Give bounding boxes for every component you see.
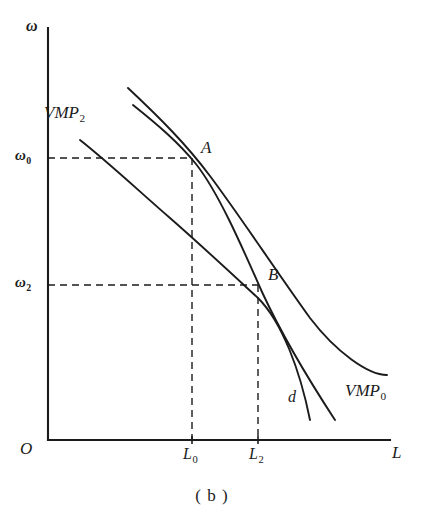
x-tick-label-L0: L0 bbox=[183, 446, 198, 466]
curve-label-d: d bbox=[288, 389, 296, 405]
curve-label-vmp0-base: VMP bbox=[345, 381, 380, 400]
point-label-A: A bbox=[201, 139, 211, 156]
y-tick-omega2-subscript: 2 bbox=[26, 282, 31, 293]
y-tick-omega0-subscript: 0 bbox=[26, 155, 31, 166]
x-tick-L2-base: L bbox=[249, 445, 258, 462]
y-tick-omega0-base: ω bbox=[15, 147, 26, 163]
x-tick-L2-subscript: 2 bbox=[258, 454, 264, 465]
x-tick-label-L2: L2 bbox=[249, 446, 264, 466]
y-tick-omega2-base: ω bbox=[15, 274, 26, 290]
curve-label-vmp0-subscript: 0 bbox=[380, 390, 386, 402]
y-tick-label-omega0: ω0 bbox=[15, 148, 31, 166]
curve-label-vmp0: VMP0 bbox=[345, 382, 386, 403]
curve-vmp0 bbox=[128, 88, 387, 375]
y-tick-label-omega2: ω2 bbox=[15, 275, 31, 293]
figure-caption: ( b ) bbox=[0, 486, 424, 506]
curve-label-vmp2-subscript: 2 bbox=[79, 112, 85, 124]
point-label-B: B bbox=[268, 266, 278, 283]
origin-label: O bbox=[20, 440, 32, 457]
curve-label-vmp2-base: VMP bbox=[44, 103, 79, 122]
curve-label-vmp2: VMP2 bbox=[44, 104, 85, 125]
economics-figure: ω L O ω0 ω2 L0 L2 A B VMP2 VMP0 d ( b ) bbox=[0, 0, 424, 522]
curve-d bbox=[133, 105, 335, 420]
x-tick-L0-subscript: 0 bbox=[192, 454, 198, 465]
plot-canvas bbox=[0, 0, 424, 522]
x-axis-label: L bbox=[392, 444, 401, 461]
x-tick-L0-base: L bbox=[183, 445, 192, 462]
y-axis-label: ω bbox=[26, 18, 38, 34]
